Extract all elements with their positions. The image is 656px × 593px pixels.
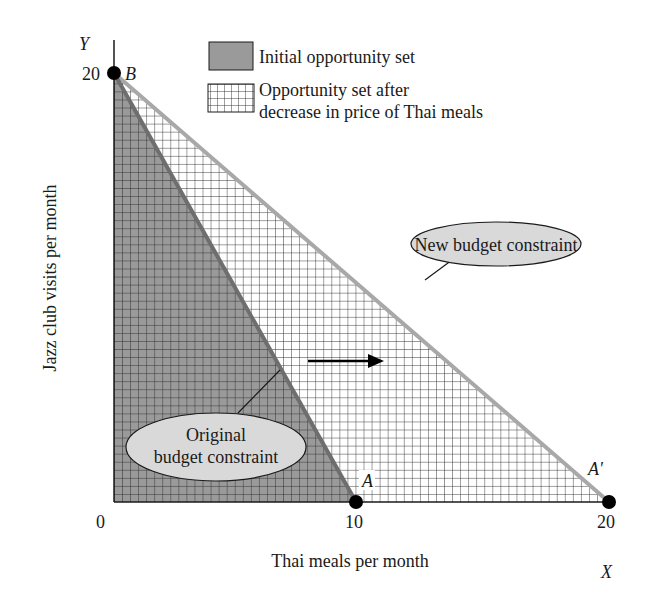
budget-constraint-chart: B A A' Y X 20 0 10 20 Thai meals per mon… bbox=[0, 0, 656, 593]
point-b-marker bbox=[107, 66, 121, 80]
legend-swatch-initial bbox=[209, 42, 253, 70]
point-a-prime-label: A' bbox=[587, 459, 604, 479]
point-a-label: A bbox=[361, 471, 374, 491]
new-budget-constraint-callout: New budget constraint bbox=[411, 222, 581, 280]
origin-label: 0 bbox=[96, 512, 105, 532]
original-budget-constraint-label-line1: Original bbox=[186, 425, 246, 445]
y-axis-title: Jazz club visits per month bbox=[40, 185, 60, 372]
y-axis-letter: Y bbox=[79, 34, 91, 54]
x-tick-10: 10 bbox=[345, 512, 363, 532]
original-budget-constraint-label-line2: budget constraint bbox=[154, 447, 278, 467]
legend: Initial opportunity set Opportunity set … bbox=[208, 42, 483, 122]
legend-label-new-line1: Opportunity set after bbox=[259, 80, 409, 100]
legend-swatch-new bbox=[208, 84, 254, 112]
x-tick-20: 20 bbox=[597, 512, 615, 532]
y-tick-20: 20 bbox=[82, 64, 100, 84]
legend-label-new-line2: decrease in price of Thai meals bbox=[259, 102, 483, 122]
point-a-marker bbox=[349, 495, 363, 509]
x-axis-letter: X bbox=[600, 562, 613, 582]
legend-label-initial: Initial opportunity set bbox=[259, 47, 415, 67]
point-a-prime-marker bbox=[602, 495, 616, 509]
new-budget-constraint-label: New budget constraint bbox=[415, 235, 578, 255]
point-b-label: B bbox=[125, 64, 136, 84]
x-axis-title: Thai meals per month bbox=[271, 551, 428, 571]
